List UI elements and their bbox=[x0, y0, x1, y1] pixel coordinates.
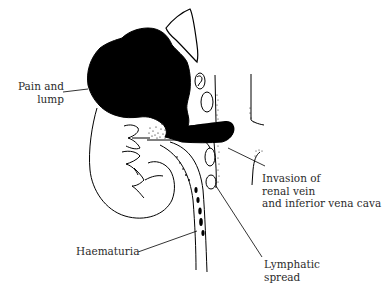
label-haematuria: Haematuria bbox=[76, 245, 139, 258]
ivc-wall-stipple bbox=[217, 95, 219, 120]
leader-pain-lump bbox=[63, 89, 88, 92]
label-line: Lymphatic bbox=[264, 258, 320, 271]
label-line: renal vein bbox=[262, 185, 381, 198]
label-line: and inferior vena cava bbox=[262, 197, 381, 210]
lymph-nodes-upper bbox=[195, 73, 213, 112]
label-lymphatic-spread: Lymphatic spread bbox=[264, 258, 320, 283]
aorta-wall-lower bbox=[252, 152, 260, 185]
ivc-lower-stipple bbox=[218, 146, 220, 183]
leader-haematuria bbox=[138, 231, 197, 252]
label-pain-and-lump: Pain and lump bbox=[10, 80, 64, 105]
ureter-inner bbox=[160, 145, 196, 270]
label-line: Haematuria bbox=[76, 245, 139, 258]
label-line: lump bbox=[10, 93, 64, 106]
leader-invasion bbox=[228, 148, 265, 166]
lymph-nodes-lower bbox=[205, 148, 216, 189]
ivc-left-wall bbox=[215, 75, 216, 122]
leader-lymphatic bbox=[216, 186, 262, 257]
renal-vein-thrombus bbox=[186, 121, 235, 142]
sinus-stipple bbox=[148, 123, 165, 138]
ureter-outer bbox=[170, 142, 207, 272]
label-line: Pain and bbox=[10, 80, 64, 93]
label-invasion-renal-vein-ivc: Invasion of renal vein and inferior vena… bbox=[262, 172, 381, 210]
label-line: spread bbox=[264, 271, 320, 284]
label-line: Invasion of bbox=[262, 172, 381, 185]
kidney-tumour-diagram bbox=[0, 0, 385, 291]
aorta-wall-upper bbox=[251, 74, 264, 125]
ureter-blood-clots bbox=[176, 156, 204, 236]
